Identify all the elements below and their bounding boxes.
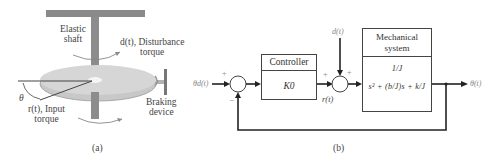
controller-title: Controller	[262, 55, 316, 71]
plant-numerator: 1/J	[363, 63, 431, 73]
braking-device-label: Braking device	[146, 97, 177, 117]
summing-junction-1[interactable]	[230, 76, 246, 92]
plant-title: Mechanical system	[363, 29, 431, 57]
plant-denominator: s² + (b/J)s + k/J	[363, 82, 431, 91]
input-torque-arrow	[78, 118, 122, 123]
input-torque-label: r(t), Input torque	[28, 104, 65, 124]
sum2-plus-top: +	[347, 68, 352, 78]
disturbance-signal-label: d(t)	[332, 27, 344, 37]
theta-arc	[23, 83, 40, 99]
arrow-input	[224, 81, 230, 87]
shaft-lower	[91, 92, 99, 119]
arrow-output	[461, 81, 468, 87]
sum1-plus-sign: +	[222, 69, 227, 79]
summing-junction-2[interactable]	[332, 76, 348, 92]
controller-gain: K0	[262, 71, 316, 101]
controller-output-label: r(t)	[322, 94, 333, 104]
theta-label: θ	[19, 93, 24, 103]
support-plate	[46, 10, 145, 17]
caption-a: (a)	[92, 143, 103, 153]
disturbance-torque-label: d(t), Disturbance torque	[120, 37, 184, 57]
output-signal-label: θ(t)	[470, 79, 481, 89]
caption-b: (b)	[333, 143, 344, 153]
controller-block[interactable]: Controller K0	[261, 54, 317, 100]
sum1-minus-sign: −	[229, 95, 234, 105]
sum2-plus-left: +	[323, 70, 328, 80]
mechanical-system-block[interactable]: Mechanical system 1/J s² + (b/J)s + k/J	[362, 28, 432, 112]
brake-wall	[164, 69, 167, 95]
input-signal-label: θd(t)	[193, 79, 208, 89]
elastic-shaft-label: Elastic shaft	[60, 24, 86, 44]
arrow-disturbance	[337, 70, 343, 76]
